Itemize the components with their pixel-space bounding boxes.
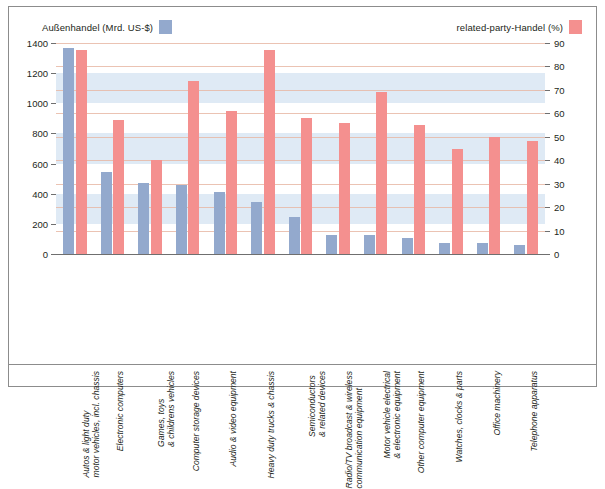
y-axis-right-tick-label: 40 xyxy=(554,155,565,166)
bar-related-party xyxy=(113,120,124,254)
y-axis-right-tick-label: 70 xyxy=(554,84,565,95)
x-axis-label-line: Computer storage devices xyxy=(191,371,201,471)
x-axis-label: Watches, clocks & parts xyxy=(454,371,464,463)
y-axis-left-tick-label: 1200 xyxy=(14,68,48,79)
x-axis-label: Other computer equipment xyxy=(416,371,426,473)
bar-related-party xyxy=(226,111,237,254)
y-axis-right-tick-label: 60 xyxy=(554,108,565,119)
x-axis-label-line: Autos & light duty xyxy=(81,371,91,478)
x-axis-label-line: Motor vehicle electrical xyxy=(382,371,392,458)
bar-related-party xyxy=(301,118,312,254)
bar-aussenhandel xyxy=(214,192,225,254)
gridline xyxy=(56,90,545,91)
x-axis-label-line: & childrens vehicles xyxy=(166,371,176,447)
y-axis-right-tick-label: 50 xyxy=(554,131,565,142)
bar-related-party xyxy=(452,149,463,255)
bar-related-party xyxy=(376,92,387,254)
bar-related-party xyxy=(339,123,350,254)
bar-aussenhandel xyxy=(364,235,375,254)
y-axis-right-tick xyxy=(545,184,550,185)
gridline xyxy=(56,113,545,114)
y-axis-left-tick xyxy=(51,224,56,225)
y-axis-right-tick xyxy=(545,137,550,138)
x-axis-label-line: Electronic computers xyxy=(115,371,125,451)
y-axis-left-tick-label: 200 xyxy=(14,218,48,229)
x-axis-label-line: Telephone apparatus xyxy=(529,371,539,451)
y-axis-left-tick-label: 600 xyxy=(14,158,48,169)
bar-related-party xyxy=(489,137,500,254)
x-axis-line xyxy=(56,254,545,255)
y-axis-left-tick xyxy=(51,43,56,44)
legend-swatch-red xyxy=(569,20,582,34)
x-axis-label-line: Watches, clocks & parts xyxy=(454,371,464,463)
bar-aussenhandel xyxy=(514,245,525,254)
x-axis-label: Office machinery xyxy=(492,371,502,435)
x-axis-label: Electronic computers xyxy=(115,371,125,451)
y-axis-left-tick xyxy=(51,133,56,134)
bar-aussenhandel xyxy=(63,48,74,254)
y-axis-left-tick xyxy=(51,164,56,165)
legend-swatch-blue xyxy=(159,20,172,34)
y-axis-right-tick xyxy=(545,66,550,67)
x-axis-label-line: Office machinery xyxy=(492,371,502,435)
x-axis-label-line: Semiconductors xyxy=(307,371,317,437)
x-axis-label-line: Heavy duty trucks & chassis xyxy=(266,371,276,478)
y-axis-right-tick xyxy=(545,231,550,232)
plot-band xyxy=(56,43,545,73)
plot-band xyxy=(56,73,545,103)
y-axis-right-tick xyxy=(545,160,550,161)
x-axis-label: Radio/TV broadcast & wirelesscommunicati… xyxy=(344,371,364,489)
x-axis-label-line: motor vehicles, incl. chassis xyxy=(91,371,101,478)
bar-aussenhandel xyxy=(289,217,300,254)
gridline xyxy=(56,43,545,44)
y-axis-left-tick xyxy=(51,103,56,104)
y-axis-right-tick-label: 20 xyxy=(554,202,565,213)
y-axis-right-tick xyxy=(545,254,550,255)
bar-aussenhandel xyxy=(326,235,337,254)
legend-label-related-party: related-party-Handel (%) xyxy=(457,22,563,33)
bar-related-party xyxy=(151,160,162,254)
x-axis-label: Autos & light dutymotor vehicles, incl. … xyxy=(81,371,101,478)
y-axis-right-tick-label: 30 xyxy=(554,178,565,189)
frame-bottom-rule xyxy=(9,364,596,365)
x-axis-label-line: Radio/TV broadcast & wireless xyxy=(344,371,354,489)
x-axis-label: Heavy duty trucks & chassis xyxy=(266,371,276,478)
y-axis-left-tick-label: 0 xyxy=(14,249,48,260)
bar-related-party xyxy=(76,50,87,254)
legend-item-related-party: related-party-Handel (%) xyxy=(457,20,582,34)
y-axis-left-tick-label: 800 xyxy=(14,128,48,139)
y-axis-right-tick-label: 90 xyxy=(554,38,565,49)
x-axis-label-line: Audio & video equipment xyxy=(228,371,238,467)
y-axis-right-tick xyxy=(545,207,550,208)
y-axis-left-tick-label: 400 xyxy=(14,188,48,199)
bar-aussenhandel xyxy=(402,238,413,254)
plot-area: 0200400600800100012001400010203040506070… xyxy=(56,43,545,254)
bar-aussenhandel xyxy=(251,202,262,254)
y-axis-right-tick-label: 0 xyxy=(554,249,559,260)
legend-label-aussenhandel: Außenhandel (Mrd. US-$) xyxy=(42,22,153,33)
bar-related-party xyxy=(264,50,275,254)
bar-aussenhandel xyxy=(477,243,488,254)
gridline xyxy=(56,66,545,67)
y-axis-right-tick-label: 80 xyxy=(554,61,565,72)
y-axis-left-tick xyxy=(51,194,56,195)
x-axis-label-line: & related devices xyxy=(317,371,327,437)
y-axis-right-tick xyxy=(545,113,550,114)
x-axis-label-line: Games, toys xyxy=(156,371,166,447)
x-axis-label: Telephone apparatus xyxy=(529,371,539,451)
x-axis-label: Games, toys& childrens vehicles xyxy=(156,371,176,447)
y-axis-left-tick-label: 1400 xyxy=(14,38,48,49)
y-axis-right-tick xyxy=(545,90,550,91)
y-axis-left-tick xyxy=(51,73,56,74)
y-axis-left-tick-label: 1000 xyxy=(14,98,48,109)
bar-aussenhandel xyxy=(439,243,450,254)
y-axis-right-tick-label: 10 xyxy=(554,225,565,236)
x-axis-label-line: communication equipment xyxy=(354,371,364,489)
x-axis-labels: Autos & light dutymotor vehicles, incl. … xyxy=(56,256,545,376)
x-axis-label-line: & electronic equipment xyxy=(392,371,402,458)
bar-aussenhandel xyxy=(101,172,112,254)
y-axis-right-tick xyxy=(545,43,550,44)
bar-aussenhandel xyxy=(176,185,187,254)
legend-item-aussenhandel: Außenhandel (Mrd. US-$) xyxy=(42,20,172,34)
bar-related-party xyxy=(414,125,425,254)
